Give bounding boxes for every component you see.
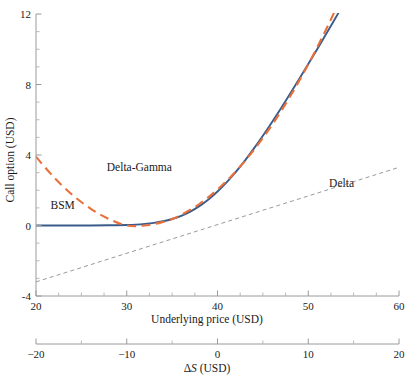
secondary-x-tick-label: 20 xyxy=(394,348,406,360)
y-axis: -404812 xyxy=(20,8,42,302)
secondary-x-tick-label: 0 xyxy=(215,348,221,360)
y-tick-label: 4 xyxy=(26,149,32,161)
delta-symbol: Δ xyxy=(184,362,191,374)
x-tick-label: 50 xyxy=(303,300,315,312)
x-tick-label: 40 xyxy=(212,300,224,312)
x-axis-primary: 2030405060 xyxy=(31,291,406,313)
y-tick-label: 12 xyxy=(20,8,31,20)
delta-label: Delta xyxy=(329,177,354,189)
series-layer xyxy=(36,0,399,282)
option-payoff-chart: -404812 2030405060 −20−1001020 Delta-Gam… xyxy=(0,0,409,377)
x-axis-secondary: −20−1001020 xyxy=(27,339,405,361)
series-line-bsm xyxy=(36,0,399,226)
bsm-label: BSM xyxy=(51,199,75,211)
secondary-x-axis-title: ΔS (USD) xyxy=(184,362,231,375)
y-tick-label: 0 xyxy=(26,220,32,232)
y-axis-title: Call option (USD) xyxy=(4,117,17,202)
x-axis-title: Underlying price (USD) xyxy=(151,313,263,326)
delta-gamma-label: Delta-Gamma xyxy=(107,161,172,173)
secondary-x-tick-label: 10 xyxy=(303,348,315,360)
chart-canvas: -404812 2030405060 −20−1001020 Delta-Gam… xyxy=(0,0,409,377)
y-tick-label: 8 xyxy=(26,79,32,91)
x-tick-label: 20 xyxy=(31,300,43,312)
secondary-x-tick-label: −10 xyxy=(118,348,136,360)
x-tick-label: 60 xyxy=(394,300,406,312)
secondary-x-tick-label: −20 xyxy=(27,348,45,360)
unit-text: (USD) xyxy=(197,362,231,375)
x-tick-label: 30 xyxy=(121,300,133,312)
